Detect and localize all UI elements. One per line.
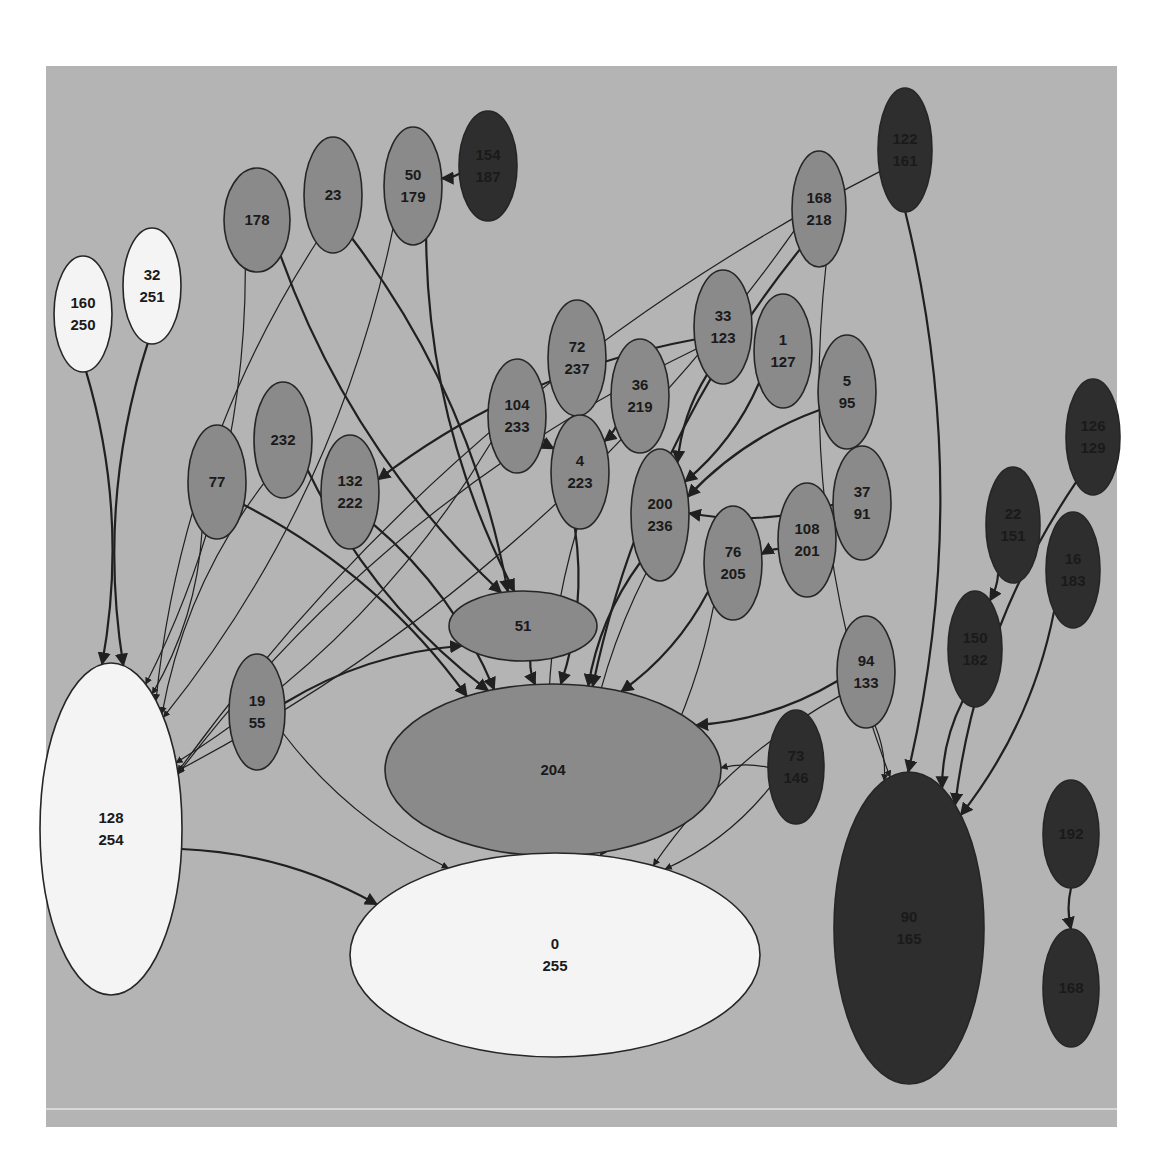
node-label: 33 [715, 307, 732, 324]
node-16_183[interactable]: 16183 [1046, 512, 1100, 628]
edge-5_95-to-200_236 [688, 410, 820, 497]
node-108_201[interactable]: 108201 [778, 483, 836, 597]
node-73_146[interactable]: 73146 [768, 710, 824, 824]
node-shape [488, 359, 546, 473]
node-150_182[interactable]: 150182 [948, 591, 1002, 707]
node-label: 232 [270, 431, 295, 448]
node-label: 72 [569, 338, 586, 355]
edge-94_133-to-204 [696, 681, 837, 725]
node-label: 127 [770, 353, 795, 370]
node-label: 36 [632, 376, 649, 393]
edge-154_187-to-50_179 [442, 174, 460, 179]
node-33_123[interactable]: 33123 [694, 270, 752, 384]
node-32_251[interactable]: 32251 [123, 228, 181, 344]
node-200_236[interactable]: 200236 [631, 449, 689, 581]
node-label: 255 [542, 957, 567, 974]
node-178[interactable]: 178 [224, 168, 290, 272]
node-label: 90 [901, 908, 918, 925]
node-label: 218 [806, 211, 831, 228]
node-94_133[interactable]: 94133 [837, 616, 895, 728]
node-5_95[interactable]: 595 [818, 335, 876, 449]
node-shape [1046, 512, 1100, 628]
edge-192-to-168 [1069, 888, 1071, 929]
node-shape [548, 300, 606, 416]
node-122_161[interactable]: 122161 [878, 88, 932, 212]
node-19_55[interactable]: 1955 [229, 654, 285, 770]
node-label: 77 [209, 473, 226, 490]
node-37_91[interactable]: 3791 [833, 446, 891, 560]
node-154_187[interactable]: 154187 [459, 111, 517, 221]
node-shape [778, 483, 836, 597]
node-label: 236 [647, 517, 672, 534]
node-23[interactable]: 23 [304, 137, 362, 253]
node-label: 50 [405, 166, 422, 183]
node-label: 104 [504, 396, 530, 413]
node-shape [792, 151, 846, 267]
node-168_218[interactable]: 168218 [792, 151, 846, 267]
node-label: 19 [249, 692, 266, 709]
node-192[interactable]: 192 [1043, 780, 1099, 888]
node-label: 51 [515, 617, 532, 634]
node-shape [704, 506, 762, 620]
edge-94_133-to-90_165 [875, 725, 885, 780]
node-shape [229, 654, 285, 770]
node-232[interactable]: 232 [254, 382, 312, 498]
edge-160_250-to-128_254 [86, 372, 112, 665]
node-76_205[interactable]: 76205 [704, 506, 762, 620]
node-shape [384, 127, 442, 245]
node-label: 237 [564, 360, 589, 377]
node-204[interactable]: 204 [385, 684, 721, 856]
node-0_255[interactable]: 0255 [350, 853, 760, 1057]
node-36_219[interactable]: 36219 [611, 339, 669, 453]
node-168[interactable]: 168 [1043, 929, 1099, 1047]
edge-22_151-to-150_182 [990, 573, 998, 600]
node-1_127[interactable]: 1127 [754, 294, 812, 408]
node-label: 126 [1080, 417, 1105, 434]
node-label: 129 [1080, 439, 1105, 456]
node-label: 4 [576, 452, 585, 469]
node-shape [551, 415, 609, 529]
node-label: 95 [839, 394, 856, 411]
node-shape [754, 294, 812, 408]
node-50_179[interactable]: 50179 [384, 127, 442, 245]
node-label: 0 [551, 935, 559, 952]
node-shape [350, 853, 760, 1057]
node-51[interactable]: 51 [449, 591, 597, 661]
node-label: 222 [337, 494, 362, 511]
node-shape [948, 591, 1002, 707]
node-72_237[interactable]: 72237 [548, 300, 606, 416]
node-label: 132 [337, 472, 362, 489]
node-77[interactable]: 77 [188, 425, 246, 539]
node-label: 55 [249, 714, 266, 731]
transition-graph: 1782350179154187122161168218160250322513… [0, 0, 1164, 1174]
node-126_129[interactable]: 126129 [1066, 379, 1120, 495]
node-label: 91 [854, 505, 871, 522]
node-label: 122 [892, 130, 917, 147]
node-shape [54, 256, 112, 372]
node-22_151[interactable]: 22151 [986, 467, 1040, 583]
node-160_250[interactable]: 160250 [54, 256, 112, 372]
node-shape [1066, 379, 1120, 495]
node-label: 219 [627, 398, 652, 415]
node-label: 32 [144, 266, 161, 283]
node-4_223[interactable]: 4223 [551, 415, 609, 529]
node-label: 133 [853, 674, 878, 691]
node-104_233[interactable]: 104233 [488, 359, 546, 473]
node-shape [631, 449, 689, 581]
node-label: 192 [1058, 825, 1083, 842]
node-label: 223 [567, 474, 592, 491]
node-label: 254 [98, 831, 124, 848]
node-shape [611, 339, 669, 453]
node-label: 187 [475, 168, 500, 185]
edge-32_251-to-128_254 [114, 343, 147, 665]
node-128_254[interactable]: 128254 [40, 663, 182, 995]
node-shape [833, 446, 891, 560]
node-90_165[interactable]: 90165 [834, 772, 984, 1084]
node-label: 146 [783, 769, 808, 786]
node-label: 23 [325, 186, 342, 203]
node-132_222[interactable]: 132222 [321, 435, 379, 549]
node-label: 128 [98, 809, 123, 826]
node-shape [321, 435, 379, 549]
node-label: 150 [962, 629, 987, 646]
node-label: 94 [858, 652, 875, 669]
